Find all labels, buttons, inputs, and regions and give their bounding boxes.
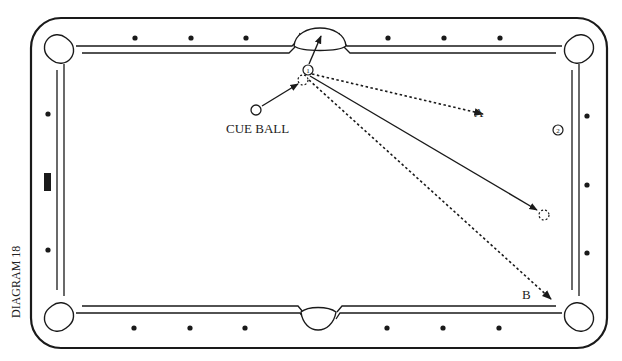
diamond-icon [385, 35, 390, 40]
pockets [39, 28, 599, 337]
pocket-top-left [39, 29, 79, 68]
diamond-icon [243, 35, 248, 40]
diamond-icon [496, 325, 501, 330]
billiards-diagram: 1 2 CUE BALL A B DIAGRAM 18 [0, 0, 622, 361]
diamond-icon [188, 35, 193, 40]
diamond-icon [242, 325, 247, 330]
left-rail-marker [44, 173, 51, 191]
table-outer-border [31, 18, 607, 348]
diamond-icon [584, 113, 589, 118]
pool-table: 1 2 CUE BALL A B DIAGRAM 18 [0, 0, 622, 361]
diamond-icon [384, 325, 389, 330]
cue-ball-label: CUE BALL [226, 121, 289, 136]
path-b-label: B [522, 287, 531, 302]
cue-ball-deflection-path [310, 76, 537, 210]
pocket-bottom-left [39, 297, 79, 336]
diagram-caption: DIAGRAM 18 [9, 246, 23, 318]
ghost-ball-end [539, 210, 549, 220]
diamond-icon [45, 247, 50, 252]
diamond-icon [45, 111, 50, 116]
ghost-ball-contact [298, 75, 308, 85]
pocket-bottom-side [301, 308, 336, 331]
diamond-icon [497, 35, 502, 40]
diamond-icon [187, 325, 192, 330]
cue-ball-path [262, 84, 298, 106]
cue-ball [251, 105, 261, 115]
ball-2-number: 2 [556, 127, 560, 135]
diamond-icon [584, 250, 589, 255]
path-a [312, 74, 483, 114]
ball-1-number: 1 [306, 67, 310, 75]
pocket-bottom-right [559, 297, 599, 336]
diamond-icon [440, 325, 445, 330]
diamond-icon [584, 182, 589, 187]
pocket-top-right [559, 29, 599, 68]
diamond-icon [131, 325, 136, 330]
diamond-icon [441, 35, 446, 40]
path-a-label: A [474, 105, 484, 120]
diamond-icon [132, 35, 137, 40]
path-b [309, 80, 551, 299]
